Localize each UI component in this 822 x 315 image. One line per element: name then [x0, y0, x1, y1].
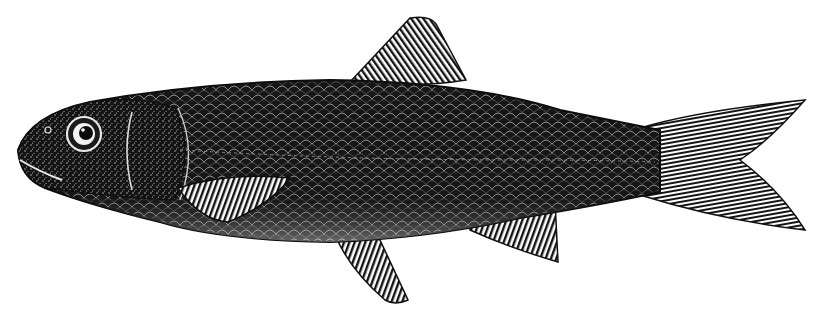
fish-head: [18, 100, 185, 200]
caudal-fin: [640, 100, 805, 230]
dorsal-fin: [350, 17, 466, 84]
pelvic-fin: [335, 234, 408, 303]
eye-icon: [67, 117, 101, 151]
fish-illustration: [0, 0, 822, 315]
